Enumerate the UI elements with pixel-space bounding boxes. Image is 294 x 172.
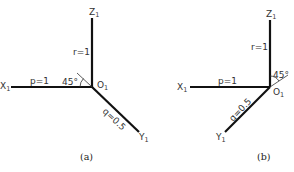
caption-b: (b): [257, 151, 271, 162]
y-coef-label: q=0.5: [101, 106, 128, 132]
x-coef-label: p=1: [30, 76, 49, 86]
angle-arc: [80, 79, 84, 88]
origin-label: O1: [97, 80, 108, 92]
z-axis-label: Z1: [89, 7, 99, 19]
y-axis: [225, 87, 270, 132]
y-axis-label: Y1: [215, 132, 226, 144]
z-coef-label: r=1: [251, 42, 268, 52]
caption-a: (a): [80, 151, 93, 162]
y-axis-label: Y1: [138, 132, 149, 144]
x-coef-label: p=1: [218, 76, 237, 86]
angle-label: 45°: [273, 70, 289, 80]
z-coef-label: r=1: [73, 47, 90, 57]
origin-label: O1: [273, 87, 284, 99]
y-coef-label: q=0.5: [227, 96, 253, 123]
z-axis-label: Z1: [266, 9, 276, 21]
x-axis-label: X1: [177, 82, 187, 94]
angle-reference-line: [77, 73, 92, 87]
angle-label: 45°: [62, 77, 78, 87]
axonometric-diagrams: Z1 r=1 X1 p=1 45° O1 q=0.5 Y1 (a) Z1 r=1…: [0, 0, 294, 172]
diagram-b: Z1 r=1 X1 p=1 45° O1 q=0.5 Y1 (b): [177, 9, 289, 162]
x-axis-label: X1: [0, 81, 10, 93]
diagram-a: Z1 r=1 X1 p=1 45° O1 q=0.5 Y1 (a): [0, 7, 149, 162]
